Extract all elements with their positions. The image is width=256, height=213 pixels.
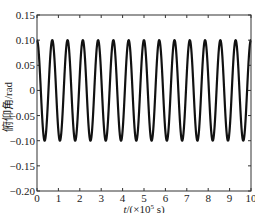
x-tick-label: 2: [77, 192, 83, 204]
x-axis-title-prefix: /(×10: [126, 203, 150, 213]
y-axis-title: 俯仰角/rad: [1, 81, 14, 132]
y-tick-label: −0.15: [10, 160, 36, 172]
x-tick-label: 0: [34, 192, 40, 204]
x-tick-label: 9: [227, 192, 233, 204]
y-tick-label: −0.10: [10, 135, 36, 147]
y-tick-label: 0.10: [16, 34, 36, 46]
pitch-angle-chart: 0.150.100.050−0.05−0.10−0.15−0.20 012345…: [0, 0, 255, 213]
x-axis-title: t/(×105 s): [123, 203, 165, 213]
y-axis-ticks: 0.150.100.050−0.05−0.10−0.15−0.20: [10, 9, 251, 197]
x-tick-label: 7: [184, 192, 190, 204]
y-tick-label: −0.20: [10, 185, 36, 197]
x-tick-label: 10: [246, 192, 256, 204]
x-tick-label: 3: [98, 192, 104, 204]
x-tick-label: 1: [56, 192, 62, 204]
x-axis-title-suffix: s): [154, 203, 165, 213]
x-tick-label: 8: [205, 192, 211, 204]
data-series-line: [37, 40, 251, 141]
y-tick-label: 0.05: [16, 59, 36, 71]
y-tick-label: 0: [30, 84, 36, 96]
y-tick-label: 0.15: [16, 9, 36, 21]
